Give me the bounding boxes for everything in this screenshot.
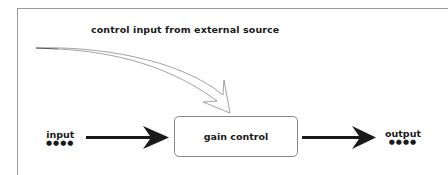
gain-control-block: gain control (174, 116, 298, 157)
output-dots-icon: ●●●● (385, 139, 421, 145)
output-arrow-icon (302, 126, 376, 149)
output-port: output ●●●● (385, 128, 421, 145)
input-dots-icon: ●●●● (46, 140, 74, 146)
curved-control-arrow-icon (36, 48, 230, 113)
gain-control-label: gain control (204, 131, 268, 142)
input-arrow-icon (86, 126, 169, 149)
input-port: input ●●●● (46, 129, 74, 146)
